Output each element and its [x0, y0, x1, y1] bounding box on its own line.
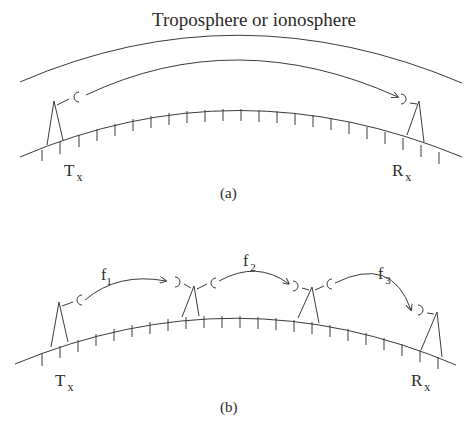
- hop-label-sub: 1: [106, 275, 112, 287]
- hop-label-f1: f1: [101, 267, 112, 287]
- dish-icon: [293, 281, 298, 291]
- transmitter-label-b: Tx: [55, 372, 73, 394]
- hop-label-main: f: [378, 265, 383, 282]
- receiver-label-main: R: [411, 371, 422, 390]
- dish-icon: [74, 92, 79, 102]
- panel-b-caption: (b): [220, 400, 238, 415]
- atmosphere-layer-arc: [20, 35, 462, 83]
- dish-icon: [77, 295, 82, 305]
- receiver-antenna: [418, 305, 442, 357]
- transmitter-label-sub: x: [76, 170, 82, 184]
- panel-a-caption: (a): [220, 186, 237, 201]
- scatter-signal-path: [86, 60, 398, 97]
- ground-hatching: [42, 316, 438, 369]
- earth-surface-arc: [15, 318, 456, 365]
- receiver-label-b: Rx: [411, 372, 430, 394]
- panel-a: [20, 35, 462, 164]
- receiver-label-a: Rx: [392, 162, 411, 184]
- dish-icon: [401, 94, 406, 104]
- hop-label-f2: f2: [243, 253, 256, 273]
- transmitter-antenna: [51, 295, 82, 347]
- hop-label-f3: f3: [378, 266, 391, 286]
- receiver-label-main: R: [392, 161, 403, 180]
- ground-hatching: [42, 109, 439, 164]
- transmitter-label-a: Tx: [64, 162, 82, 184]
- transmitter-label-main: T: [55, 371, 65, 390]
- hop-arrow-f3: [335, 274, 411, 310]
- receiver-label-sub: x: [405, 170, 411, 184]
- hop-label-sub: 3: [385, 274, 391, 286]
- dish-icon: [418, 305, 423, 315]
- dish-icon: [211, 278, 216, 288]
- dish-icon: [175, 277, 180, 287]
- hop-label-sub: 2: [250, 261, 256, 273]
- receiver-label-sub: x: [424, 380, 430, 394]
- receiver-antenna: [401, 94, 424, 142]
- hop-arrow-f1: [85, 279, 166, 300]
- transmitter-label-main: T: [64, 161, 74, 180]
- dish-icon: [327, 279, 332, 289]
- relay-station-2: [293, 279, 332, 323]
- transmitter-label-sub: x: [67, 380, 73, 394]
- relay-station-1: [175, 277, 216, 317]
- hop-label-main: f: [243, 252, 248, 269]
- atmosphere-layer-label: Troposphere or ionosphere: [152, 10, 356, 29]
- figure-canvas: [0, 0, 475, 433]
